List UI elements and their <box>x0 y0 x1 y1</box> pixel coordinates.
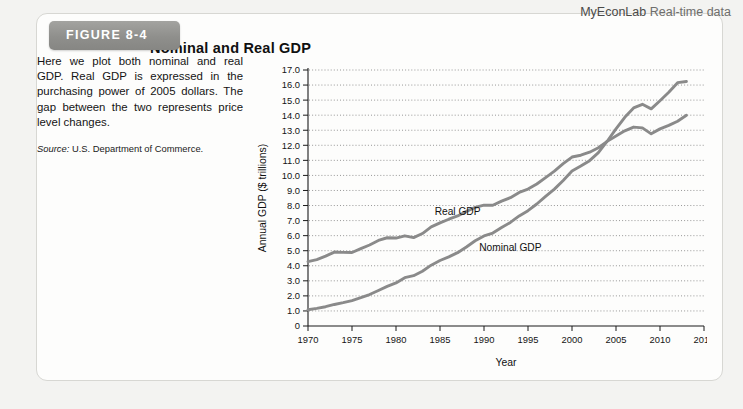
x-tick-label: 2005 <box>606 334 627 345</box>
y-tick-label: 2.0 <box>287 290 300 301</box>
real-gdp-series-label: Real GDP <box>435 206 481 217</box>
figure-caption-text: Here we plot both nominal and real GDP. … <box>37 54 243 130</box>
real-gdp-line <box>308 115 686 261</box>
x-tick-label: 2015 <box>694 334 707 345</box>
y-tick-label: 6.0 <box>287 230 300 241</box>
y-tick-label: 0 <box>295 320 300 331</box>
y-tick-label: 11.0 <box>282 155 300 166</box>
y-tick-label: 8.0 <box>287 200 300 211</box>
figure-card: FIGURE 8-4 Nominal and Real GDP Here we … <box>36 13 723 381</box>
y-tick-label: 1.0 <box>287 305 300 316</box>
x-axis-ticks <box>308 326 704 331</box>
y-tick-label: 7.0 <box>287 215 300 226</box>
x-tick-label: 1985 <box>430 334 451 345</box>
x-tick-label: 1975 <box>342 334 363 345</box>
myeconlab-branding: MyEconLab Real-time data <box>580 5 731 19</box>
x-tick-label: 1990 <box>474 334 495 345</box>
y-axis-tick-labels: 01.02.03.04.05.06.07.08.09.010.011.012.0… <box>282 64 300 331</box>
source-text: U.S. Department of Commerce. <box>72 143 203 154</box>
y-tick-label: 15.0 <box>282 95 300 106</box>
y-tick-label: 10.0 <box>282 170 300 181</box>
x-tick-label: 1980 <box>386 334 407 345</box>
y-axis-title: Annual GDP ($ trillions) <box>257 144 268 252</box>
chart-svg: 01.02.03.04.05.06.07.08.09.010.011.012.0… <box>252 58 707 374</box>
figure-caption-block: Here we plot both nominal and real GDP. … <box>37 54 253 155</box>
nominal-gdp-series-label: Nominal GDP <box>479 242 541 253</box>
nominal-gdp-line <box>308 81 686 309</box>
x-tick-label: 2000 <box>562 334 583 345</box>
y-tick-label: 5.0 <box>287 245 300 256</box>
figure-number-badge: FIGURE 8-4 <box>49 21 180 50</box>
x-axis-tick-labels: 1970197519801985199019952000200520102015 <box>298 334 707 345</box>
y-tick-label: 17.0 <box>282 64 300 75</box>
gdp-line-chart: 01.02.03.04.05.06.07.08.09.010.011.012.0… <box>252 58 707 374</box>
source-label: Source: <box>37 143 69 154</box>
y-tick-label: 4.0 <box>287 260 300 271</box>
figure-source: Source: U.S. Department of Commerce. <box>37 143 243 155</box>
y-axis-ticks <box>303 70 308 326</box>
x-tick-label: 1970 <box>298 334 319 345</box>
y-tick-label: 12.0 <box>282 140 300 151</box>
y-tick-label: 3.0 <box>287 275 300 286</box>
y-tick-label: 13.0 <box>282 125 300 136</box>
y-tick-label: 14.0 <box>282 110 300 121</box>
y-tick-label: 16.0 <box>282 79 300 90</box>
brand-subtitle: Real-time data <box>650 5 731 19</box>
x-axis-title: Year <box>496 357 518 368</box>
figure-number-label: FIGURE 8-4 <box>66 28 148 42</box>
x-tick-label: 2010 <box>650 334 671 345</box>
y-tick-label: 9.0 <box>287 185 300 196</box>
x-tick-label: 1995 <box>518 334 539 345</box>
brand-name: MyEconLab <box>580 5 646 19</box>
